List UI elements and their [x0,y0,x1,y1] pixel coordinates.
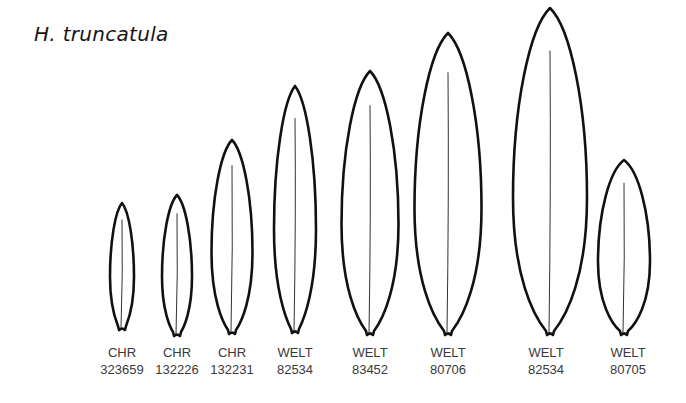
herbarium-code: WELT [588,344,668,361]
specimen-number: 82534 [255,361,335,378]
specimen-number: 80705 [588,361,668,378]
leaf-outlines [0,0,686,403]
specimen-number: 83452 [330,361,410,378]
specimen-label: WELT 83452 [330,344,410,378]
specimen-label: WELT 80706 [408,344,488,378]
specimen-number: 80706 [408,361,488,378]
herbarium-code: WELT [408,344,488,361]
specimen-label: WELT 80705 [588,344,668,378]
herbarium-code: WELT [506,344,586,361]
specimen-label: WELT 82534 [506,344,586,378]
specimen-number: 82534 [506,361,586,378]
specimen-label: WELT 82534 [255,344,335,378]
herbarium-code: WELT [330,344,410,361]
herbarium-code: WELT [255,344,335,361]
